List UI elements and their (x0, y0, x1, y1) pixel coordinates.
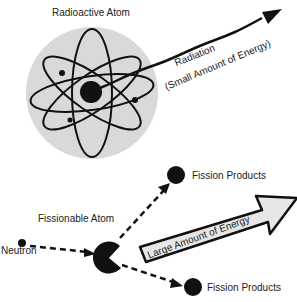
path-bottom-product (122, 265, 176, 283)
arrowhead-bottom-product (170, 278, 183, 288)
label-fission-products-bottom: Fission Products (207, 282, 281, 293)
neutron-path (30, 246, 88, 252)
label-neutron: Neutron (1, 245, 37, 256)
radiation-arrowhead (262, 9, 282, 24)
label-fissionable-atom: Fissionable Atom (38, 213, 114, 224)
path-top-product (120, 188, 166, 238)
label-radioactive-atom: Radioactive Atom (52, 7, 130, 18)
arrowhead-top-product (158, 183, 170, 194)
nucleus (80, 81, 102, 103)
fission-product-top (167, 166, 185, 184)
label-fission-products-top: Fission Products (192, 170, 266, 181)
fission-product-bottom (184, 278, 202, 296)
fissionable-atom (93, 242, 121, 274)
